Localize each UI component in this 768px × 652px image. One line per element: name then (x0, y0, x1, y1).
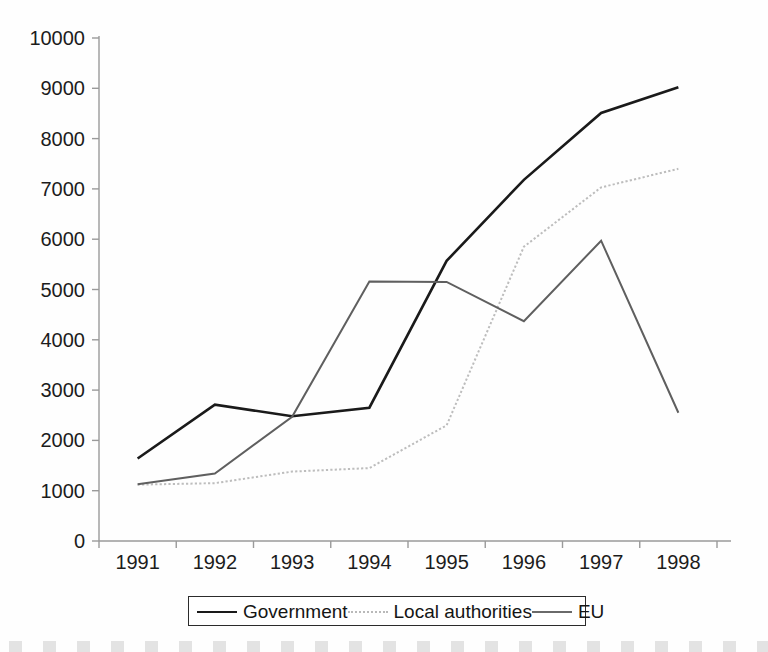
y-axis-tick-label: 3000 (41, 379, 86, 401)
y-axis-tick-label: 5000 (41, 279, 86, 301)
y-axis-tick-label: 8000 (41, 128, 86, 150)
y-axis-tick-label: 10000 (29, 27, 85, 49)
x-axis-tick-label: 1996 (502, 551, 547, 573)
legend-item-government: Government (197, 602, 348, 621)
y-axis-tick-label: 9000 (41, 77, 86, 99)
line-solid-dark-swatch (197, 605, 237, 617)
y-axis-tick-label: 7000 (41, 178, 86, 200)
series-line-government (138, 87, 679, 458)
line-solid-gray-swatch (532, 605, 572, 617)
legend-label-government: Government (243, 602, 348, 621)
x-axis-tick-label: 1994 (347, 551, 392, 573)
series-line-local-authorities (138, 169, 679, 485)
scan-bleed-artifact (0, 641, 768, 652)
legend-label-eu: EU (578, 602, 604, 621)
plot-area: 0100020003000400050006000700080009000100… (0, 0, 768, 652)
y-axis-tick-label: 4000 (41, 329, 86, 351)
y-axis-tick-label: 0 (74, 530, 85, 552)
line-chart-figure: 0100020003000400050006000700080009000100… (0, 0, 768, 652)
legend-label-local-authorities: Local authorities (394, 602, 532, 621)
y-axis-tick-label: 2000 (41, 429, 86, 451)
y-axis-tick-label: 6000 (41, 228, 86, 250)
x-axis-tick-label: 1993 (270, 551, 315, 573)
chart-legend: Government Local authorities EU (188, 596, 586, 626)
legend-item-eu: EU (532, 602, 604, 621)
x-axis-tick-label: 1991 (115, 551, 160, 573)
x-axis-tick-label: 1995 (424, 551, 469, 573)
x-axis-tick-label: 1997 (579, 551, 624, 573)
series-line-eu (138, 241, 679, 484)
legend-item-local-authorities: Local authorities (348, 602, 532, 621)
line-dotted-light-swatch (348, 605, 388, 617)
x-axis-tick-label: 1998 (656, 551, 701, 573)
y-axis-tick-label: 1000 (41, 480, 86, 502)
x-axis-tick-label: 1992 (193, 551, 238, 573)
